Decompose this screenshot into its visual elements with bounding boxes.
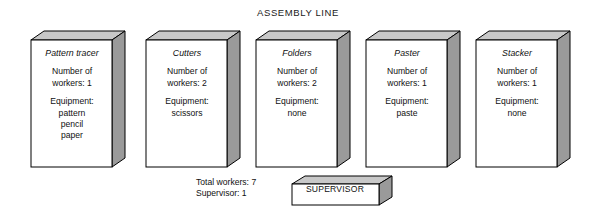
station-title: Stacker [481,48,553,59]
workers-value: workers: 2 [151,78,223,89]
assembly-line-diagram: ASSEMBLY LINE Pattern tracer Number of w… [0,0,596,214]
equipment-label: Equipment: [261,96,333,107]
station-title: Pattern tracer [36,48,108,59]
equipment-item: pattern [36,108,108,119]
station-title: Folders [261,48,333,59]
equipment-field: Equipment: pattern pencil paper [36,96,108,142]
workers-field: Number of workers: 1 [481,66,553,89]
workers-field: Number of workers: 1 [371,66,443,89]
equipment-item: none [261,108,333,119]
equipment-field: Equipment: none [481,96,553,119]
station-title: Paster [371,48,443,59]
equipment-item: none [481,108,553,119]
equipment-item: scissors [151,108,223,119]
workers-field: Number of workers: 2 [151,66,223,89]
workers-value: workers: 1 [481,78,553,89]
workers-label: Number of [371,66,443,77]
workers-label: Number of [36,66,108,77]
station-face-4: Paster Number of workers: 1 Equipment: p… [366,39,448,175]
equipment-field: Equipment: scissors [151,96,223,119]
equipment-item: paste [371,108,443,119]
supervisor-count-text: Supervisor: 1 [196,188,256,199]
workers-field: Number of workers: 2 [261,66,333,89]
equipment-label: Equipment: [371,96,443,107]
page-title: ASSEMBLY LINE [0,7,596,18]
equipment-item: paper [36,130,108,141]
equipment-field: Equipment: none [261,96,333,119]
total-workers-text: Total workers: 7 [196,177,256,188]
station-title: Cutters [151,48,223,59]
station-box-1[interactable]: Pattern tracer Number of workers: 1 Equi… [31,39,113,175]
station-box-3[interactable]: Folders Number of workers: 2 Equipment: … [256,39,338,175]
equipment-field: Equipment: paste [371,96,443,119]
supervisor-label: SUPERVISOR [291,184,379,194]
station-box-5[interactable]: Stacker Number of workers: 1 Equipment: … [476,39,558,175]
station-box-4[interactable]: Paster Number of workers: 1 Equipment: p… [366,39,448,175]
totals-block: Total workers: 7 Supervisor: 1 [196,177,256,199]
station-face-5: Stacker Number of workers: 1 Equipment: … [476,39,558,175]
workers-label: Number of [151,66,223,77]
station-face-2: Cutters Number of workers: 2 Equipment: … [146,39,228,175]
equipment-label: Equipment: [481,96,553,107]
workers-value: workers: 2 [261,78,333,89]
equipment-label: Equipment: [151,96,223,107]
equipment-item: pencil [36,119,108,130]
station-box-2[interactable]: Cutters Number of workers: 2 Equipment: … [146,39,228,175]
station-face-3: Folders Number of workers: 2 Equipment: … [256,39,338,175]
workers-value: workers: 1 [371,78,443,89]
station-face-1: Pattern tracer Number of workers: 1 Equi… [31,39,113,175]
workers-label: Number of [261,66,333,77]
workers-label: Number of [481,66,553,77]
equipment-label: Equipment: [36,96,108,107]
workers-value: workers: 1 [36,78,108,89]
workers-field: Number of workers: 1 [36,66,108,89]
supervisor-box[interactable]: SUPERVISOR [291,175,395,207]
